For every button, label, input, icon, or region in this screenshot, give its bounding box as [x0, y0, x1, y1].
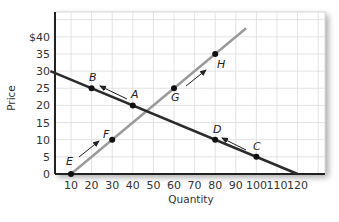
x-axis-title: Quantity — [168, 193, 213, 205]
x-tick-label: 20 — [85, 179, 99, 192]
point-label-h: H — [217, 58, 225, 71]
point-label-c: C — [253, 140, 261, 153]
plot-area — [55, 12, 325, 174]
point-h — [212, 51, 218, 57]
y-tick-label: $40 — [29, 31, 50, 44]
x-tick-label: 110 — [267, 179, 288, 192]
supply-demand-chart: 05101520253035$40 1020304050607080901001… — [0, 0, 339, 222]
y-tick-label: 15 — [36, 117, 50, 130]
x-tick-label: 90 — [229, 179, 243, 192]
y-tick-label: 25 — [36, 82, 50, 95]
x-tick-label: 30 — [105, 179, 119, 192]
x-tick-label: 40 — [126, 179, 140, 192]
point-a — [130, 102, 136, 108]
point-f — [109, 137, 115, 143]
x-tick-label: 60 — [167, 179, 181, 192]
point-label-b: B — [89, 71, 97, 84]
point-c — [253, 154, 259, 160]
x-tick-label: 80 — [208, 179, 222, 192]
point-label-d: D — [213, 123, 221, 136]
y-tick-label: 30 — [36, 65, 50, 78]
point-label-e: E — [66, 155, 73, 168]
y-axis-title: Price — [5, 85, 17, 111]
y-tick-label: 10 — [36, 134, 50, 147]
point-label-a: A — [130, 88, 139, 101]
y-tick-labels: 05101520253035$40 — [29, 31, 50, 181]
point-e — [68, 171, 74, 177]
y-tick-label: 20 — [36, 99, 50, 112]
x-tick-label: 100 — [246, 179, 267, 192]
x-tick-label: 70 — [188, 179, 202, 192]
y-tick-label: 35 — [36, 48, 50, 61]
x-tick-labels: 102030405060708090100110120 — [64, 179, 308, 192]
point-d — [212, 137, 218, 143]
y-tick-label: 5 — [43, 151, 50, 164]
y-tick-label: 0 — [43, 168, 50, 181]
x-tick-label: 10 — [64, 179, 78, 192]
point-label-g: G — [171, 91, 180, 104]
point-b — [89, 85, 95, 91]
x-tick-label: 120 — [287, 179, 308, 192]
point-label-f: F — [103, 128, 110, 141]
x-tick-label: 50 — [146, 179, 160, 192]
